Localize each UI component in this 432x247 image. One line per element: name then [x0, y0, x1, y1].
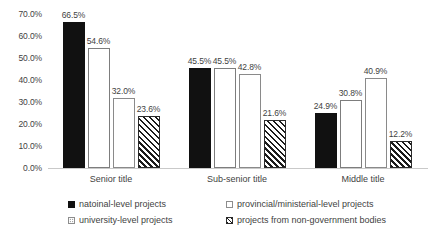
y-axis: 70.0%60.0%50.0%40.0%30.0%20.0%10.0%0.0%: [0, 14, 46, 168]
bar-column: 45.5%: [214, 14, 236, 168]
bar: [138, 116, 160, 168]
bar-column: 21.6%: [264, 14, 286, 168]
bar-column: 45.5%: [189, 14, 211, 168]
bar: [113, 98, 135, 168]
y-axis-tick-label: 20.0%: [18, 119, 42, 129]
bar-group-bars: 66.5%54.6%32.0%23.6%: [48, 14, 174, 168]
bar-column: 30.8%: [340, 14, 362, 168]
bar-group-bars: 24.9%30.8%40.9%12.2%: [300, 14, 426, 168]
legend-item[interactable]: natoinal-level projects: [68, 199, 226, 209]
y-axis-tick-label: 40.0%: [18, 75, 42, 85]
legend-item-label: projects from non-government bodies: [237, 215, 386, 225]
bar-column: 42.8%: [239, 14, 261, 168]
bar: [63, 22, 85, 168]
legend-item-label: university-level projects: [79, 215, 173, 225]
bar-value-label: 12.2%: [389, 129, 413, 139]
bar-value-label: 30.8%: [339, 88, 363, 98]
legend-item-label: natoinal-level projects: [79, 199, 166, 209]
bar-value-label: 42.8%: [238, 62, 262, 72]
bar-column: 12.2%: [390, 14, 412, 168]
bar: [264, 120, 286, 168]
chart-legend: natoinal-level projectsprovincial/minist…: [68, 196, 408, 228]
y-axis-tick-label: 60.0%: [18, 31, 42, 41]
bar: [88, 48, 110, 168]
y-axis-tick-label: 30.0%: [18, 97, 42, 107]
bar-column: 40.9%: [365, 14, 387, 168]
bar-value-label: 23.6%: [137, 104, 161, 114]
bar-value-label: 45.5%: [188, 56, 212, 66]
bar-value-label: 21.6%: [263, 108, 287, 118]
plot-area: 66.5%54.6%32.0%23.6%45.5%45.5%42.8%21.6%…: [48, 14, 426, 168]
bar: [365, 78, 387, 168]
legend-swatch-icon: [68, 201, 75, 208]
bar: [239, 74, 261, 168]
bar-column: 66.5%: [63, 14, 85, 168]
bar-column: 54.6%: [88, 14, 110, 168]
x-axis-category-label: Senior title: [90, 174, 133, 184]
bar-value-label: 45.5%: [213, 56, 237, 66]
bar-value-label: 66.5%: [62, 10, 86, 20]
bar-column: 24.9%: [315, 14, 337, 168]
x-axis-category-label: Sub-senior title: [207, 174, 267, 184]
bar-group: 66.5%54.6%32.0%23.6%: [48, 14, 174, 168]
y-axis-tick-label: 50.0%: [18, 53, 42, 63]
bar-value-label: 40.9%: [364, 66, 388, 76]
bar-column: 23.6%: [138, 14, 160, 168]
bar-value-label: 24.9%: [314, 101, 338, 111]
bar: [315, 113, 337, 168]
bar: [189, 68, 211, 168]
bar-value-label: 32.0%: [112, 86, 136, 96]
legend-item[interactable]: provincial/ministerial-level projects: [226, 199, 408, 209]
legend-item[interactable]: university-level projects: [68, 215, 226, 225]
legend-item[interactable]: projects from non-government bodies: [226, 215, 408, 225]
y-axis-tick-label: 0.0%: [23, 163, 42, 173]
bar-value-label: 54.6%: [87, 36, 111, 46]
bar: [390, 141, 412, 168]
bar: [340, 100, 362, 168]
legend-swatch-icon: [226, 217, 233, 224]
bar-group-bars: 45.5%45.5%42.8%21.6%: [174, 14, 300, 168]
legend-item-label: provincial/ministerial-level projects: [237, 199, 374, 209]
legend-swatch-icon: [68, 217, 75, 224]
x-axis-category-label: Middle title: [341, 174, 384, 184]
legend-swatch-icon: [226, 201, 233, 208]
y-axis-tick-label: 70.0%: [18, 9, 42, 19]
bar-chart: 70.0%60.0%50.0%40.0%30.0%20.0%10.0%0.0% …: [0, 0, 432, 247]
bar-column: 32.0%: [113, 14, 135, 168]
bar-group: 24.9%30.8%40.9%12.2%: [300, 14, 426, 168]
x-axis-line: [48, 168, 428, 169]
y-axis-tick-label: 10.0%: [18, 141, 42, 151]
bar: [214, 68, 236, 168]
bar-group: 45.5%45.5%42.8%21.6%: [174, 14, 300, 168]
